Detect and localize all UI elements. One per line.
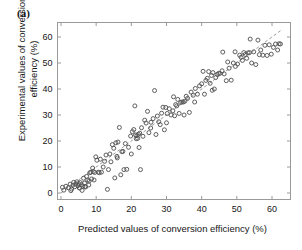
data-point	[267, 43, 271, 47]
data-point	[254, 63, 258, 67]
data-point	[248, 37, 252, 41]
y-tick-label: 40	[42, 84, 52, 94]
data-point	[226, 60, 230, 64]
y-tick-label: 50	[42, 58, 52, 68]
data-point	[106, 168, 110, 172]
y-tick-label: 60	[42, 32, 52, 42]
data-point	[229, 78, 233, 82]
x-tick-label: 30	[161, 204, 171, 214]
data-point	[101, 165, 105, 169]
data-point	[227, 66, 231, 70]
data-point	[263, 43, 267, 47]
data-point	[151, 117, 155, 121]
data-point	[146, 109, 150, 113]
data-point	[119, 173, 123, 177]
data-point	[276, 48, 280, 52]
data-point	[92, 178, 96, 182]
data-point	[207, 70, 211, 74]
data-point	[154, 133, 158, 137]
y-tick-label: 30	[42, 110, 52, 120]
y-tick-label: 10	[42, 162, 52, 172]
data-point	[245, 56, 249, 60]
data-point	[108, 152, 112, 156]
data-point	[202, 92, 206, 96]
data-point	[233, 50, 237, 54]
data-point	[138, 168, 142, 172]
data-point	[117, 125, 121, 129]
x-tick-label: 10	[91, 204, 101, 214]
data-point	[113, 176, 117, 180]
data-point	[141, 134, 145, 138]
data-point	[256, 38, 260, 42]
data-point	[137, 146, 141, 150]
data-point	[224, 79, 228, 83]
y-axis-label: Experimental values of conversion effici…	[16, 0, 40, 154]
data-point	[140, 126, 144, 130]
data-point	[123, 142, 127, 146]
data-point	[269, 52, 273, 56]
data-point	[187, 110, 191, 114]
data-point	[129, 152, 133, 156]
data-point	[250, 61, 254, 65]
data-point	[153, 89, 157, 93]
x-tick-label: 50	[232, 204, 242, 214]
data-point	[125, 167, 129, 171]
data-point	[147, 131, 151, 135]
y-tick-label: 20	[42, 136, 52, 146]
data-point	[109, 160, 113, 164]
data-point	[201, 69, 205, 73]
y-tick-label: 0	[47, 188, 52, 198]
data-point	[259, 48, 263, 52]
x-tick-label: 60	[267, 204, 277, 214]
data-points	[60, 37, 282, 193]
data-point	[127, 145, 131, 149]
data-point	[193, 86, 197, 90]
figure-panel: (a) Experimental values of conversion ef…	[0, 0, 302, 250]
data-point	[177, 111, 181, 115]
data-point	[162, 128, 166, 132]
data-point	[160, 111, 164, 115]
data-point	[133, 104, 137, 108]
data-point	[103, 159, 107, 163]
data-point	[182, 113, 186, 117]
data-point	[172, 95, 176, 99]
data-point	[165, 121, 169, 125]
data-point	[104, 153, 108, 157]
x-axis-label: Predicted values of conversion efficienc…	[50, 223, 295, 234]
data-point	[155, 114, 159, 118]
data-point	[129, 134, 133, 138]
data-point	[195, 92, 199, 96]
data-point	[105, 187, 109, 191]
data-point	[221, 50, 225, 54]
data-point	[112, 146, 116, 150]
x-tick-label: 40	[197, 204, 207, 214]
x-tick-label: 0	[58, 204, 63, 214]
x-tick-label: 20	[126, 204, 136, 214]
data-point	[265, 53, 269, 57]
data-point	[193, 100, 197, 104]
scatter-plot: 01020304050600102030405060	[0, 0, 302, 250]
